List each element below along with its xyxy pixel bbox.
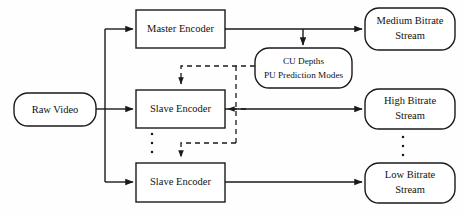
- master-encoder-label: Master Encoder: [147, 23, 214, 34]
- edge-cu-depths-to-slave-encoder-2: [181, 143, 236, 157]
- ellipsis-streams: [402, 136, 405, 157]
- slave-encoder-2-label: Slave Encoder: [150, 176, 211, 187]
- low-bitrate-label-line1: Low Bitrate: [385, 169, 436, 180]
- medium-bitrate-label-line1: Medium Bitrate: [377, 15, 444, 26]
- node-high-bitrate-stream: High Bitrate Stream: [365, 89, 455, 129]
- ellipsis-streams-dot-2: [402, 145, 405, 148]
- node-master-encoder: Master Encoder: [136, 10, 225, 48]
- node-cu-depths: CU Depths PU Prediction Modes: [255, 48, 352, 88]
- ellipsis-encoders-dot-1: [151, 133, 154, 136]
- edge-cu-depths-to-slave-encoder-1: [181, 66, 255, 84]
- ellipsis-encoders: [151, 133, 154, 154]
- encoder-architecture-diagram: Raw Video Master Encoder Slave Encoder S…: [0, 0, 464, 216]
- cu-depths-shape: [255, 48, 352, 88]
- node-medium-bitrate-stream: Medium Bitrate Stream: [365, 8, 455, 50]
- medium-bitrate-label-line2: Stream: [395, 30, 425, 41]
- node-slave-encoder-2: Slave Encoder: [136, 163, 225, 202]
- diagram-canvas: Raw Video Master Encoder Slave Encoder S…: [0, 0, 464, 216]
- ellipsis-streams-dot-1: [402, 136, 405, 139]
- node-raw-video: Raw Video: [14, 93, 96, 126]
- cu-depths-label-line2: PU Prediction Modes: [264, 70, 344, 80]
- ellipsis-streams-dot-3: [402, 154, 405, 157]
- node-low-bitrate-stream: Low Bitrate Stream: [365, 163, 455, 203]
- low-bitrate-label-line2: Stream: [395, 184, 425, 195]
- raw-video-label: Raw Video: [32, 104, 79, 115]
- high-bitrate-label-line2: Stream: [395, 110, 425, 121]
- ellipsis-encoders-dot-2: [151, 142, 154, 145]
- ellipsis-encoders-dot-3: [151, 151, 154, 154]
- slave-encoder-1-label: Slave Encoder: [150, 103, 211, 114]
- node-slave-encoder-1: Slave Encoder: [136, 90, 225, 128]
- high-bitrate-label-line1: High Bitrate: [384, 95, 437, 106]
- cu-depths-label-line1: CU Depths: [283, 56, 325, 66]
